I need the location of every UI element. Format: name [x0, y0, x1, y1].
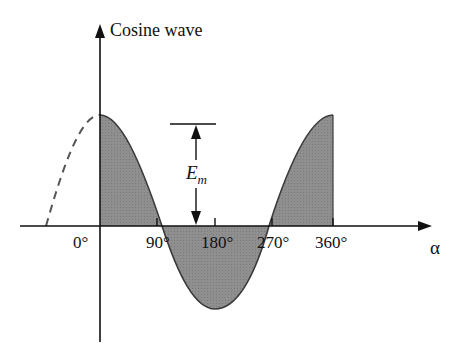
y-axis-arrow-icon	[95, 24, 105, 38]
tick-label-270: 270°	[257, 234, 289, 251]
amplitude-label: Em	[186, 163, 207, 186]
tick-label-90: 90°	[146, 234, 170, 251]
tick-label-0: 0°	[73, 234, 88, 251]
tick-label-180: 180°	[201, 234, 233, 251]
amplitude-sub: m	[198, 172, 207, 187]
em-arrow-down-icon	[191, 211, 201, 225]
amplitude-base: E	[186, 162, 198, 183]
cosine-wave-diagram	[0, 0, 464, 363]
x-axis-symbol: α	[430, 238, 440, 257]
em-arrow-up-icon	[191, 125, 201, 139]
cosine-fill	[100, 115, 333, 309]
x-axis-arrow-icon	[418, 221, 432, 231]
tick-label-360: 360°	[315, 234, 347, 251]
dashed-extension	[46, 115, 100, 226]
diagram-title: Cosine wave	[110, 21, 202, 39]
